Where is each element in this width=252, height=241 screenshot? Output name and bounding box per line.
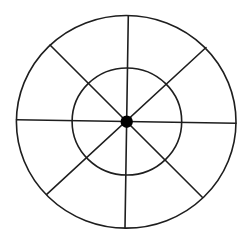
center-dot [121, 116, 133, 128]
circle-diagram [0, 0, 252, 241]
